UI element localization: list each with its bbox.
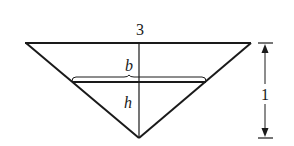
depth-label: h — [124, 94, 132, 111]
top-width-label: 3 — [136, 21, 144, 38]
triangle-left-edge — [26, 43, 139, 138]
triangle-right-edge — [139, 43, 251, 138]
total-height-label: 1 — [261, 86, 269, 103]
triangle-trough-diagram: 3 b h 1 — [0, 0, 294, 146]
arrow-up-icon — [262, 44, 269, 53]
arrow-down-icon — [262, 128, 269, 137]
triangle — [25, 43, 251, 138]
water-width-label: b — [125, 57, 133, 74]
